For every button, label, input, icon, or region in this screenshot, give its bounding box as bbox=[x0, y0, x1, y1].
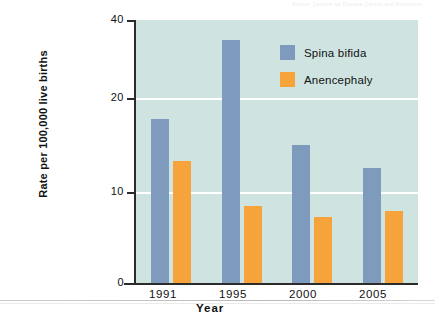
page-edge-rule bbox=[0, 300, 435, 301]
plot-area bbox=[136, 20, 418, 283]
x-axis-line bbox=[124, 283, 418, 285]
legend-item-spina-bifida: Spina bifida bbox=[280, 45, 373, 60]
legend-swatch-spina-bifida bbox=[280, 45, 295, 60]
bar-2005-anencephaly bbox=[385, 211, 403, 283]
legend-item-anencephaly: Anencephaly bbox=[280, 72, 373, 87]
x-tick-label-1991: 1991 bbox=[123, 288, 203, 300]
y-tick-label-20: 20 bbox=[84, 91, 124, 103]
bar-2000-spina-bifida bbox=[292, 145, 310, 283]
y-tick-label-40: 40 bbox=[84, 13, 124, 25]
chart-legend: Spina bifida Anencephaly bbox=[280, 45, 373, 99]
y-tick-mark-20 bbox=[127, 98, 135, 100]
y-tick-mark-0 bbox=[127, 283, 135, 285]
y-tick-label-10: 10 bbox=[84, 185, 124, 197]
x-tick-label-1995: 1995 bbox=[193, 288, 273, 300]
bar-1991-spina-bifida bbox=[151, 119, 169, 283]
page-edge-rule-secondary bbox=[0, 303, 435, 304]
scan-artifact-text: Source: Centers for Disease Control and … bbox=[292, 0, 435, 8]
legend-swatch-anencephaly bbox=[280, 72, 295, 87]
y-axis-title: Rate per 100,000 live births bbox=[37, 24, 49, 224]
bar-2000-anencephaly bbox=[314, 217, 332, 283]
x-tick-label-2000: 2000 bbox=[263, 288, 343, 300]
y-axis-line bbox=[134, 20, 136, 285]
legend-label-anencephaly: Anencephaly bbox=[304, 74, 373, 86]
bar-1991-anencephaly bbox=[173, 161, 191, 283]
bar-2005-spina-bifida bbox=[363, 168, 381, 283]
bar-1995-anencephaly bbox=[244, 206, 262, 283]
legend-label-spina-bifida: Spina bifida bbox=[304, 47, 367, 59]
x-tick-label-2005: 2005 bbox=[333, 288, 413, 300]
bar-1995-spina-bifida bbox=[222, 40, 240, 283]
y-tick-mark-10 bbox=[127, 192, 135, 194]
y-tick-mark-40 bbox=[127, 20, 135, 22]
gridline-20 bbox=[136, 98, 418, 100]
chart-figure: Source: Centers for Disease Control and … bbox=[0, 0, 435, 327]
y-tick-label-0: 0 bbox=[84, 276, 124, 288]
